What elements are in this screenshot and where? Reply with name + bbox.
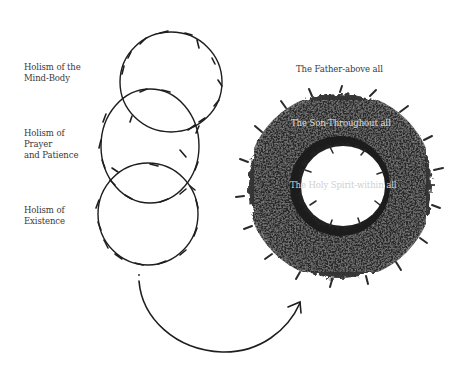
label-holism-prayer-patience: Holism of Prayer and Patience xyxy=(24,128,78,161)
label-holism-existence: Holism of Existence xyxy=(24,205,65,227)
middle-vine-circle xyxy=(99,89,199,203)
label-son-throughout-all: The Son-Throughout all xyxy=(291,118,391,129)
curved-arrow xyxy=(138,274,301,352)
label-father-above-all: The Father-above all xyxy=(296,64,383,75)
label-holism-mind-body: Holism of the Mind-Body xyxy=(24,62,81,84)
top-vine-circle xyxy=(120,31,222,132)
bottom-vine-circle xyxy=(96,163,198,265)
label-holy-spirit-within-all: The Holy Spirit-within all xyxy=(290,180,396,191)
diagram-canvas xyxy=(0,0,468,375)
vine-circles xyxy=(96,31,222,265)
